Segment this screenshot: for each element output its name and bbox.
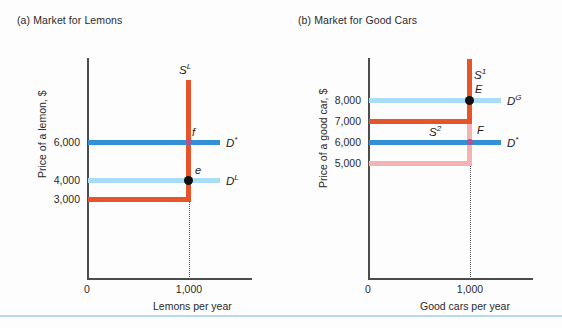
- panel-b-demand-good-line: [369, 98, 501, 103]
- panel-a-demand-lemon-line: [88, 178, 220, 183]
- panel-a-supply-lemon-label-sup: L: [187, 62, 191, 71]
- panel-b-supply-2-horizontal: [369, 161, 472, 166]
- panel-b-x-axis-label: Good cars per year: [420, 300, 510, 312]
- panel-b-plot-area: Price of a good car, $ 8,000 7,000 6,000…: [281, 0, 562, 328]
- panel-a-point-f-label: f: [192, 126, 195, 138]
- panel-b-y-axis: [368, 58, 370, 279]
- panel-a-xtick-0: 0: [76, 283, 98, 295]
- panel-b-supply-1-vertical: [467, 59, 472, 122]
- panel-a-point-e-label: e: [195, 164, 201, 176]
- panel-b-ytick-8000: 8,000: [311, 94, 361, 106]
- panel-a-demand-star-label: D*: [226, 135, 237, 149]
- panel-a-y-axis: [87, 58, 89, 279]
- panel-b-supply-2-label-base: S: [429, 126, 437, 138]
- panel-a-demand-star-line: [88, 140, 220, 145]
- panel-a-demand-lemon-label-sup: L: [234, 173, 238, 182]
- panel-b-point-F-marker: [467, 139, 473, 145]
- figure-bottom-divider: [0, 315, 562, 317]
- panel-b-demand-star-line: [369, 140, 501, 145]
- panel-a-ytick-3000: 3,000: [30, 193, 80, 205]
- panel-a-x-axis-label: Lemons per year: [153, 300, 232, 312]
- panel-b-ytick-7000: 7,000: [311, 115, 361, 127]
- panel-a-supply-lemon-label-base: S: [179, 64, 187, 76]
- panel-a-point-e-marker: [184, 176, 193, 185]
- panel-a-point-f-marker: [186, 139, 192, 145]
- panel-b-demand-star-label: D*: [507, 135, 518, 149]
- panel-a-ytick-6000: 6,000: [30, 136, 80, 148]
- economics-figure: (a) Market for Lemons Price of a lemon, …: [0, 0, 562, 328]
- panel-b-supply-1-label: S1: [474, 67, 486, 81]
- panel-market-for-good-cars: (b) Market for Good Cars Price of a good…: [281, 0, 562, 328]
- panel-b-ytick-6000: 6,000: [311, 136, 361, 148]
- panel-b-point-E-label: E: [475, 83, 482, 95]
- panel-a-demand-lemon-label: DL: [226, 173, 239, 187]
- panel-a-plot-area: Price of a lemon, $ 6,000 4,000 3,000 SL…: [0, 0, 281, 328]
- panel-a-supply-lemon-horizontal: [88, 197, 191, 202]
- panel-b-supply-1-label-sup: 1: [482, 67, 486, 76]
- panel-b-supply-1-label-base: S: [474, 69, 482, 81]
- panel-market-for-lemons: (a) Market for Lemons Price of a lemon, …: [0, 0, 281, 328]
- panel-b-supply-2-label-sup: 2: [437, 124, 441, 133]
- panel-b-demand-star-label-sup: *: [515, 135, 518, 144]
- panel-b-x-axis: [368, 278, 533, 280]
- panel-b-point-F-label: F: [477, 124, 484, 136]
- panel-b-supply-2-label: S2: [429, 124, 441, 138]
- panel-a-xtick-1000: 1,000: [166, 283, 212, 295]
- panel-b-point-E-marker: [465, 96, 474, 105]
- panel-b-supply-1-horizontal: [369, 119, 472, 124]
- panel-a-ytick-4000: 4,000: [30, 174, 80, 186]
- panel-a-demand-star-label-sup: *: [234, 135, 237, 144]
- panel-a-quantity-reference-line: [189, 200, 190, 279]
- panel-b-demand-good-label-sup: G: [515, 93, 521, 102]
- panel-a-y-axis-label: Price of a lemon, $: [36, 90, 48, 178]
- panel-b-quantity-reference-line: [470, 166, 471, 279]
- panel-b-xtick-1000: 1,000: [447, 283, 493, 295]
- panel-b-demand-good-label: DG: [507, 93, 522, 107]
- panel-b-ytick-5000: 5,000: [311, 157, 361, 169]
- panel-a-supply-lemon-label: SL: [179, 62, 191, 76]
- panel-b-xtick-0: 0: [357, 283, 379, 295]
- panel-a-x-axis: [87, 278, 252, 280]
